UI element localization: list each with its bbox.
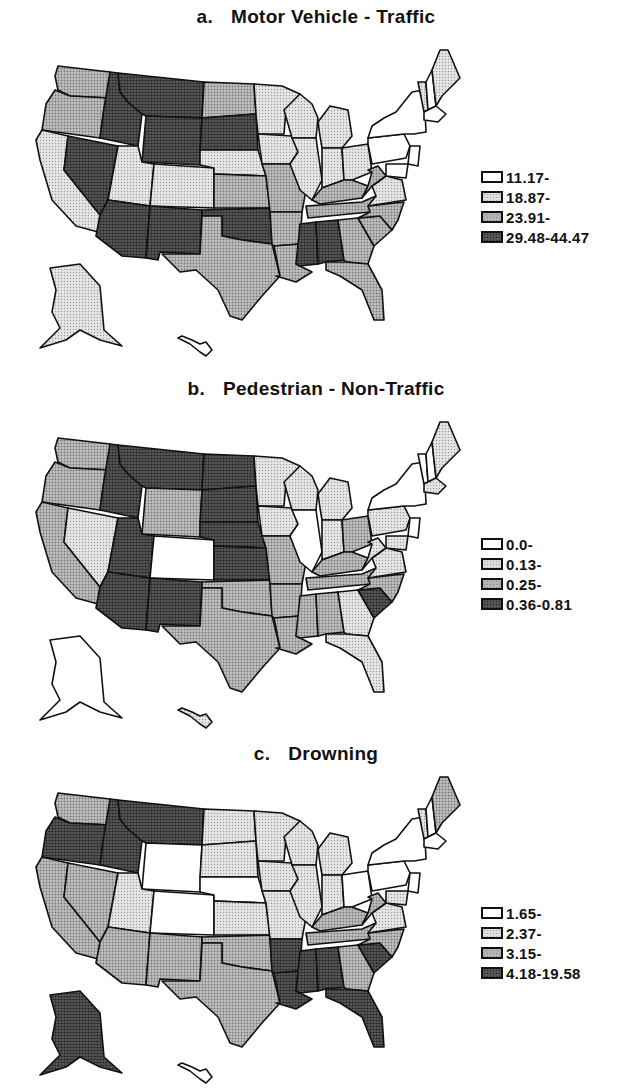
state-nj (408, 518, 420, 538)
state-co (150, 891, 214, 935)
legend: 1.65- 2.37- 3.15- 4.18-19.58 (481, 903, 581, 983)
state-me (432, 50, 460, 106)
state-mi (318, 478, 352, 520)
state-ny (368, 462, 426, 510)
state-sd (200, 841, 258, 877)
legend-swatch-light (481, 191, 503, 203)
legend-label: 0.13- (506, 556, 542, 573)
legend-swatch-dark (481, 967, 503, 979)
state-ny (368, 817, 426, 865)
state-oh (342, 144, 372, 180)
panel-motor-vehicle-traffic: a.Motor Vehicle - Traffic 11.17- 18.87- … (0, 0, 632, 360)
legend-swatch-medium (481, 947, 503, 959)
state-ms (296, 594, 318, 638)
state-wy (142, 843, 202, 892)
legend-swatch-white (481, 171, 503, 183)
panel-drowning: c.Drowning 1.65- 2.37- 3.15- 4.18-19.58 (0, 737, 632, 1088)
state-ny (368, 90, 426, 138)
state-md (386, 164, 408, 178)
state-ar (270, 584, 302, 618)
legend-label: 4.18-19.58 (506, 965, 581, 982)
state-co (150, 164, 214, 208)
state-ms (296, 949, 318, 993)
state-ak (40, 636, 122, 720)
legend-item: 0.25- (481, 574, 572, 594)
state-nm (146, 206, 202, 260)
panel-pedestrian-non-traffic: b.Pedestrian - Non-Traffic 0.0- 0.13- 0.… (0, 372, 632, 732)
state-md (386, 536, 408, 550)
legend: 0.0- 0.13- 0.25- 0.36-0.81 (481, 534, 572, 614)
state-wy (142, 116, 202, 165)
state-pa (368, 861, 410, 891)
legend-swatch-white (481, 907, 503, 919)
state-oh (342, 871, 372, 907)
legend-item: 11.17- (481, 167, 589, 187)
legend-label: 18.87- (506, 189, 550, 206)
state-nm (146, 933, 202, 987)
state-az (96, 200, 150, 258)
state-ar (270, 212, 302, 246)
state-or (42, 817, 110, 865)
legend-item: 0.0- (481, 534, 572, 554)
state-ks (214, 901, 270, 935)
state-ar (270, 939, 302, 973)
state-pa (368, 134, 410, 164)
state-az (96, 927, 150, 985)
legend-label: 1.65- (506, 905, 542, 922)
legend-item: 1.65- (481, 903, 581, 923)
state-hi (178, 1063, 212, 1083)
legend-swatch-dark (481, 231, 503, 243)
state-co (150, 536, 214, 580)
state-fl (326, 989, 384, 1047)
legend-swatch-medium (481, 578, 503, 590)
state-nj (408, 146, 420, 166)
state-fl (326, 262, 384, 320)
state-nd (202, 809, 256, 845)
legend-label: 2.37- (506, 925, 542, 942)
legend-label: 11.17- (506, 169, 550, 186)
state-or (42, 462, 110, 510)
state-ms (296, 222, 318, 266)
legend-item: 18.87- (481, 187, 589, 207)
state-ks (214, 546, 270, 580)
legend-label: 29.48-44.47 (506, 229, 589, 246)
legend-swatch-dark (481, 598, 503, 610)
state-or (42, 90, 110, 138)
legend-item: 3.15- (481, 943, 581, 963)
state-md (386, 891, 408, 905)
legend-item: 2.37- (481, 923, 581, 943)
legend-label: 3.15- (506, 945, 542, 962)
state-sd (200, 114, 258, 150)
legend-swatch-light (481, 558, 503, 570)
state-nd (202, 454, 256, 490)
legend: 11.17- 18.87- 23.91- 29.48-44.47 (481, 167, 589, 247)
state-hi (178, 336, 212, 356)
legend-label: 0.25- (506, 576, 542, 593)
legend-label: 23.91- (506, 209, 550, 226)
state-ak (40, 264, 122, 348)
legend-item: 0.13- (481, 554, 572, 574)
state-mi (318, 833, 352, 875)
state-nm (146, 578, 202, 632)
legend-swatch-medium (481, 211, 503, 223)
state-fl (326, 634, 384, 692)
legend-label: 0.36-0.81 (506, 596, 572, 613)
legend-item: 23.91- (481, 207, 589, 227)
state-sd (200, 486, 258, 522)
state-hi (178, 708, 212, 728)
legend-item: 4.18-19.58 (481, 963, 581, 983)
state-me (432, 422, 460, 478)
state-ks (214, 174, 270, 208)
state-me (432, 777, 460, 833)
state-mi (318, 106, 352, 148)
legend-swatch-white (481, 538, 503, 550)
legend-swatch-light (481, 927, 503, 939)
state-oh (342, 516, 372, 552)
state-wy (142, 488, 202, 537)
legend-item: 0.36-0.81 (481, 594, 572, 614)
state-nd (202, 82, 256, 118)
state-nj (408, 873, 420, 893)
legend-item: 29.48-44.47 (481, 227, 589, 247)
state-ak (40, 991, 122, 1075)
legend-label: 0.0- (506, 536, 533, 553)
